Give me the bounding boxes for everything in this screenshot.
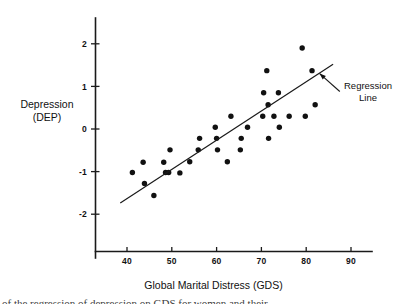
x-axis-ticks: 405060708090 [122,247,356,266]
y-tick-label: -1 [79,167,87,177]
data-point [309,68,314,73]
data-point [245,125,250,130]
data-point [187,159,192,164]
x-tick-label: 60 [212,256,222,266]
data-point [197,136,202,141]
data-point [299,45,304,50]
y-axis-ticks: -2-1012 [79,39,99,219]
data-point [271,114,276,119]
y-tick-label: 2 [82,39,87,49]
data-point [264,68,269,73]
y-tick-label: -2 [79,209,87,219]
regression-line [120,64,333,203]
data-point [167,147,172,152]
y-axis-title: Depression (DEP) [8,98,86,124]
data-point [215,147,220,152]
caption-fragment: of the regression of depression on GDS f… [0,297,407,304]
annotation-line2: Line [344,92,392,104]
data-point [261,90,266,95]
axes-group [96,18,373,258]
y-tick-label: 0 [82,124,87,134]
data-point [213,125,218,130]
data-points-group [130,45,318,198]
y-axis-title-line1: Depression [20,98,73,110]
x-tick-label: 50 [167,256,177,266]
annotation-line1: Regression [344,80,392,91]
plot-canvas: 405060708090 -2-1012 [0,0,407,304]
data-point [286,114,291,119]
x-tick-label: 90 [346,256,356,266]
data-point [303,114,308,119]
data-point [312,102,317,107]
scatter-plot-figure: 405060708090 -2-1012 Depression (DEP) Gl… [0,0,407,304]
x-axis-title: Global Marital Distress (GDS) [0,279,407,292]
data-point [177,170,182,175]
regression-line-annotation: Regression Line [344,80,392,104]
data-point [238,147,243,152]
data-point [130,170,135,175]
x-tick-label: 80 [301,256,311,266]
data-point [276,90,281,95]
annotation-arrow [320,74,340,92]
y-axis-title-line2: (DEP) [8,111,86,124]
data-point [151,193,156,198]
data-point [239,136,244,141]
data-point [228,114,233,119]
data-point [140,160,145,165]
y-tick-label: 1 [82,82,87,92]
data-point [260,114,265,119]
x-tick-label: 70 [256,256,266,266]
data-point [161,160,166,165]
data-point [225,159,230,164]
x-tick-label: 40 [122,256,132,266]
data-point [266,136,271,141]
data-point [277,125,282,130]
